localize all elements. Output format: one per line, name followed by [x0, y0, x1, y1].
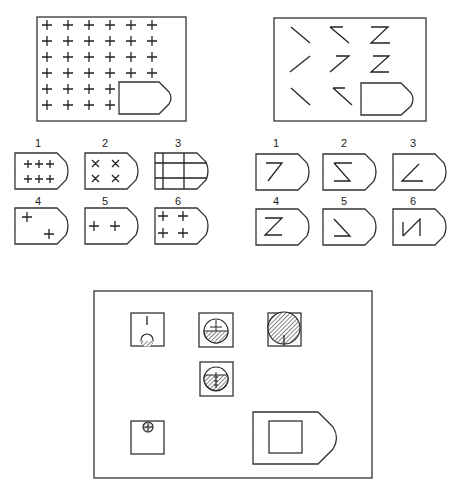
puzzle-3 — [94, 291, 372, 478]
plus-icon — [84, 36, 94, 46]
plus-icon — [42, 52, 52, 62]
plus-icon — [42, 100, 52, 110]
puzzle-2 — [274, 18, 426, 121]
plus-icon — [42, 84, 52, 94]
option-label: 5 — [102, 195, 108, 207]
sigma-shape-icon — [334, 163, 352, 181]
p3-cell-top-middle — [199, 313, 233, 347]
backslash-base-icon — [334, 219, 350, 236]
p1-option-6[interactable]: 6 — [155, 195, 208, 244]
option-label: 4 — [35, 195, 41, 207]
grid-lines-icon — [155, 153, 207, 189]
p2-option-1[interactable]: 1 — [256, 137, 309, 190]
p2-option-3[interactable]: 3 — [393, 137, 446, 190]
plus-icon — [105, 68, 115, 78]
plus-icon — [126, 68, 136, 78]
p2-option-6[interactable]: 6 — [393, 195, 446, 245]
puzzle-1 — [37, 17, 186, 121]
option-label: 3 — [410, 137, 416, 149]
plus-icon-group — [158, 211, 188, 238]
p1-option-5[interactable]: 5 — [85, 195, 138, 244]
p1-option-4[interactable]: 4 — [15, 195, 68, 244]
plus-icon — [126, 52, 136, 62]
option-label: 6 — [175, 195, 181, 207]
plus-icon — [105, 100, 115, 110]
p3-cell-middle — [200, 362, 233, 396]
p2-option-2[interactable]: 2 — [323, 137, 376, 190]
p2-option-5[interactable]: 5 — [323, 195, 376, 245]
plus-icon — [84, 52, 94, 62]
x-mark-icon-group — [92, 160, 119, 182]
option-label: 1 — [273, 137, 279, 149]
puzzle-2-matrix-frame — [274, 18, 426, 121]
z-shape-icon — [265, 218, 282, 235]
puzzle-2-options: 1 2 3 4 5 6 — [256, 137, 446, 245]
p3-cell-top-right — [268, 312, 301, 346]
option-label: 5 — [341, 195, 347, 207]
option-label: 1 — [35, 137, 41, 149]
p2-option-4[interactable]: 4 — [256, 195, 309, 245]
plus-icon-group — [89, 221, 120, 231]
puzzle-page: 1 2 3 4 — [0, 0, 460, 489]
n-shape-icon — [403, 219, 420, 236]
p1-option-2[interactable]: 2 — [85, 137, 138, 189]
plus-icon — [105, 36, 115, 46]
plus-icon — [63, 20, 73, 30]
puzzle-2-stroke-figures — [290, 27, 390, 105]
plus-icon — [42, 20, 52, 30]
plus-icon — [63, 84, 73, 94]
plus-icon — [63, 68, 73, 78]
option-label: 3 — [175, 137, 181, 149]
plus-icon — [105, 20, 115, 30]
option-label: 6 — [410, 195, 416, 207]
plus-icon — [147, 52, 157, 62]
plus-icon — [63, 52, 73, 62]
plus-icon — [42, 36, 52, 46]
option-label: 2 — [341, 137, 347, 149]
option-label: 2 — [102, 137, 108, 149]
p1-option-3[interactable]: 3 — [155, 137, 208, 189]
seven-shape-icon — [266, 163, 282, 181]
plus-icon — [84, 84, 94, 94]
p3-answer-slot — [253, 412, 337, 464]
p3-cell-bottom-left — [131, 421, 164, 454]
plus-icon — [105, 52, 115, 62]
puzzle-1-options: 1 2 3 4 — [15, 137, 208, 244]
plus-icon — [147, 36, 157, 46]
plus-icon — [147, 20, 157, 30]
option-label: 4 — [273, 195, 279, 207]
puzzle-1-missing-slot — [119, 82, 171, 114]
puzzle-2-missing-slot — [361, 83, 413, 115]
puzzle-1-plus-grid — [42, 20, 157, 110]
plus-icon — [84, 100, 94, 110]
plus-icon — [63, 36, 73, 46]
angle-shape-icon — [402, 164, 423, 181]
plus-icon — [105, 84, 115, 94]
plus-icon — [126, 20, 136, 30]
plus-icon — [147, 68, 157, 78]
plus-icon — [84, 20, 94, 30]
plus-icon-group — [24, 160, 54, 183]
plus-icon — [63, 100, 73, 110]
p1-option-1[interactable]: 1 — [15, 137, 68, 189]
plus-icon — [84, 68, 94, 78]
p3-cell-top-left — [131, 313, 164, 347]
plus-icon — [42, 68, 52, 78]
plus-icon-group — [22, 212, 54, 239]
plus-icon — [126, 36, 136, 46]
